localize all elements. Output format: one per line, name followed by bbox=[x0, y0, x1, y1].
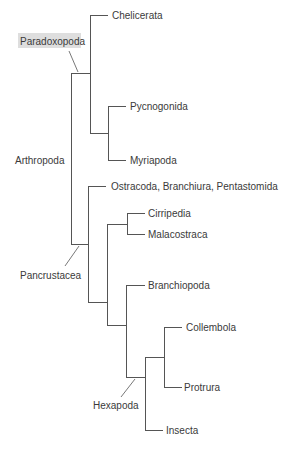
leaf-collembola: Collembola bbox=[186, 322, 236, 333]
leaf-branchiopoda: Branchiopoda bbox=[148, 280, 210, 291]
paradoxopoda-leader bbox=[69, 51, 78, 72]
leaf-insecta: Insecta bbox=[166, 425, 199, 436]
leaf-chelicerata: Chelicerata bbox=[112, 10, 163, 21]
leaf-malacostraca: Malacostraca bbox=[148, 229, 208, 240]
pancrustacea-leader bbox=[65, 246, 79, 266]
clade-pancrustacea: Pancrustacea bbox=[20, 270, 82, 281]
leaf-ostracoda: Ostracoda, Branchiura, Pentastomida bbox=[111, 181, 278, 192]
clade-hexapoda: Hexapoda bbox=[93, 400, 139, 411]
clade-arthropoda: Arthropoda bbox=[15, 155, 65, 166]
clade-paradoxopoda: Paradoxopoda bbox=[20, 36, 85, 47]
leaf-cirripedia: Cirripedia bbox=[148, 208, 191, 219]
leaf-protrura: Protrura bbox=[184, 382, 221, 393]
phylogenetic-tree: Chelicerata Pycnogonida Myriapoda Ostrac… bbox=[0, 0, 300, 454]
leaf-pycnogonida: Pycnogonida bbox=[130, 101, 188, 112]
leaf-myriapoda: Myriapoda bbox=[130, 155, 177, 166]
hexapoda-leader bbox=[121, 379, 135, 397]
